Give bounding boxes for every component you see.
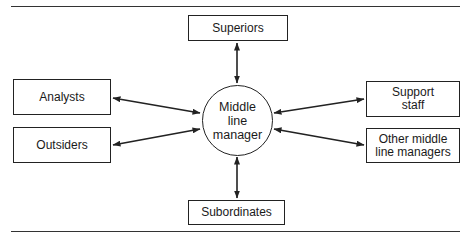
node-outsiders: Outsiders	[13, 127, 111, 163]
node-subordinates: Subordinates	[188, 200, 285, 225]
node-superiors: Superiors	[188, 15, 288, 41]
center-label: Middle line manager	[213, 100, 262, 142]
node-label: Analysts	[39, 91, 84, 104]
arrow-other-middle-line-managers	[274, 129, 364, 145]
node-label: Other middle line managers	[375, 133, 450, 159]
node-other-middle-line-managers: Other middle line managers	[366, 128, 460, 163]
node-middle-line-manager: Middle line manager	[202, 85, 273, 156]
node-support-staff: Support staff	[366, 81, 460, 117]
arrow-analysts	[113, 98, 200, 113]
node-label: Outsiders	[36, 139, 87, 152]
node-label: Superiors	[212, 22, 263, 35]
node-analysts: Analysts	[13, 79, 111, 115]
node-label: Support staff	[392, 86, 434, 112]
arrow-support-staff	[274, 99, 364, 113]
node-label: Subordinates	[201, 206, 272, 219]
arrow-outsiders	[113, 129, 200, 145]
